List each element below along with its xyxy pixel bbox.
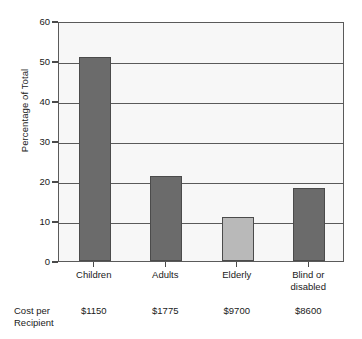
x-tick-mark: [308, 262, 309, 267]
cost-value: $8600: [260, 305, 356, 317]
bar: [293, 188, 325, 261]
bar-chart-figure: Percentage of Total 0102030405060 Childr…: [0, 0, 362, 339]
x-tick-mark: [236, 262, 237, 267]
y-tick-label: 30: [12, 137, 50, 147]
x-label-line: disabled: [260, 281, 356, 293]
bar: [150, 176, 182, 261]
x-axis-label: Blind ordisabled: [260, 269, 356, 292]
bar: [79, 57, 111, 261]
y-tick-label: 10: [12, 217, 50, 227]
y-tick-label: 20: [12, 177, 50, 187]
y-tick-label: 40: [12, 97, 50, 107]
y-tick-label: 0: [12, 257, 50, 267]
plot-area: [58, 22, 344, 262]
x-label-line: Blind or: [260, 269, 356, 281]
y-tick-label: 60: [12, 17, 50, 27]
y-tick-label: 50: [12, 57, 50, 67]
cost-row-label-line: Recipient: [14, 317, 54, 329]
x-tick-mark: [93, 262, 94, 267]
bar: [222, 217, 254, 261]
x-tick-mark: [165, 262, 166, 267]
